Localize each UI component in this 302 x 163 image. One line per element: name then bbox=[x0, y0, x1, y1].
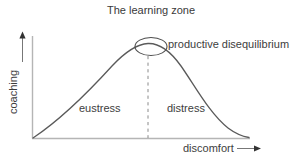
zone-label-eustress: eustress bbox=[79, 102, 121, 114]
x-axis-label: discomfort bbox=[183, 142, 234, 154]
y-axis-label: coaching bbox=[7, 70, 19, 114]
chart-canvas bbox=[0, 0, 302, 163]
learning-curve-path bbox=[33, 43, 249, 138]
chart-title: The learning zone bbox=[0, 4, 302, 16]
learning-zone-figure: The learning zone productive disequilibr… bbox=[0, 0, 302, 163]
peak-highlight-ellipse bbox=[135, 38, 167, 56]
y-axis-arrow-icon bbox=[19, 32, 25, 63]
x-axis-arrow-icon bbox=[237, 145, 261, 151]
zone-label-distress: distress bbox=[167, 102, 205, 114]
productive-disequilibrium-label: productive disequilibrium bbox=[168, 38, 289, 50]
